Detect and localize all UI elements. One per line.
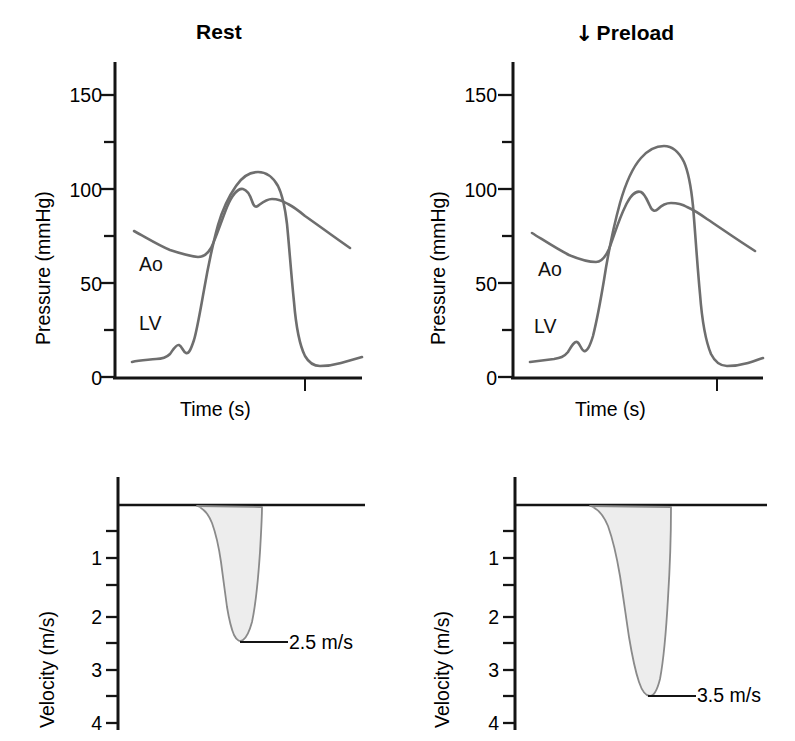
axis-lines-rest-pressure [113, 62, 362, 391]
doppler-envelope-preload [590, 506, 671, 696]
figure-root: Rest Pressure (mmHg) 150 100 50 0 Ao LV … [0, 0, 795, 741]
y-axis-ticks-rest-pressure [100, 95, 115, 377]
panel-rest-pressure: Rest Pressure (mmHg) 150 100 50 0 Ao LV … [0, 0, 400, 430]
panel-rest-velocity: Velocity (m/s) 1 2 3 4 2.5 m/s [0, 430, 400, 741]
plot-area-preload-velocity [395, 430, 795, 741]
trace-lv-preload [530, 146, 763, 366]
trace-lv-rest [132, 172, 362, 366]
axis-lines-preload-pressure [511, 62, 763, 391]
plot-area-rest-pressure [0, 0, 400, 430]
plot-area-preload-pressure [395, 0, 795, 430]
trace-aortic-preload [532, 192, 755, 262]
y-axis-ticks-preload-velocity [503, 531, 515, 723]
y-axis-ticks-rest-velocity [106, 531, 118, 723]
trace-aortic-rest [134, 189, 350, 257]
doppler-envelope-rest [197, 506, 262, 641]
panel-preload-pressure: ↓Preload Pressure (mmHg) 150 100 50 0 Ao… [395, 0, 795, 430]
plot-area-rest-velocity [0, 430, 400, 741]
y-axis-ticks-preload-pressure [498, 95, 513, 377]
panel-preload-velocity: Velocity (m/s) 1 2 3 4 3.5 m/s [395, 430, 795, 741]
